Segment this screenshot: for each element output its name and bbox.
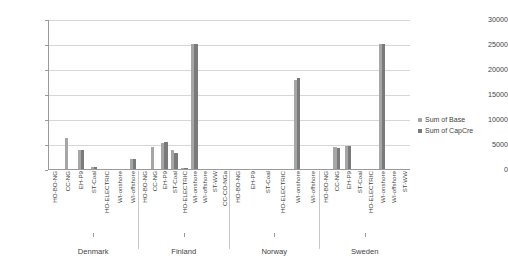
x-axis-category-label: WI-offshore — [304, 171, 319, 233]
x-axis-category-label: CC-NG — [149, 171, 159, 233]
x-axis-category-label-text: WI-offshore — [308, 171, 315, 203]
bar-pair[interactable] — [220, 20, 230, 169]
bar-pair[interactable] — [126, 20, 139, 169]
x-axis-category-label: WI-onshore — [289, 171, 304, 233]
bar-pair[interactable] — [387, 20, 398, 169]
bar-chart: 300002500020000150001000050000 HO-BO-NGC… — [0, 0, 508, 272]
x-axis-category-label-text: ST-WW — [401, 171, 408, 192]
bar-base[interactable] — [65, 138, 68, 169]
bar-pair[interactable] — [320, 20, 331, 169]
bar-capcre[interactable] — [348, 146, 351, 170]
bar-pair[interactable] — [305, 20, 320, 169]
x-axis-category-label: ST-Coal — [259, 171, 274, 233]
bar-capcre[interactable] — [174, 153, 177, 169]
plot-area — [48, 20, 410, 170]
bar-pair[interactable] — [245, 20, 260, 169]
group-tick-mark — [274, 233, 275, 237]
x-axis-category-label: WI-offshore — [126, 171, 139, 233]
bar-pair[interactable] — [149, 20, 159, 169]
x-axis-category-label-text: HO-BO-NG — [233, 171, 240, 203]
bar-capcre[interactable] — [164, 142, 167, 169]
bar-pair[interactable] — [376, 20, 387, 169]
bar-capcre[interactable] — [133, 159, 136, 169]
bar-pair[interactable] — [189, 20, 199, 169]
bar-capcre[interactable] — [382, 44, 385, 169]
x-axis-category-label: EH-P9 — [74, 171, 87, 233]
y-axis-tick-label: 0 — [464, 166, 508, 174]
x-axis-category-label: HO-BO-NG — [48, 171, 61, 233]
bar-pair[interactable] — [275, 20, 290, 169]
bar-pair[interactable] — [331, 20, 342, 169]
x-axis-category-label-text: HO-BO-NG — [322, 171, 329, 203]
x-axis-category-label-text: EH-P9 — [248, 171, 255, 189]
bar-pair[interactable] — [199, 20, 209, 169]
bar-capcre[interactable] — [297, 78, 300, 169]
x-axis-category-label-text: HO-ELECTRIC — [278, 171, 285, 213]
bar-pair[interactable] — [365, 20, 376, 169]
bar-pair[interactable] — [75, 20, 88, 169]
x-axis-category-label-text: CC-NG — [64, 171, 71, 191]
bar-pair[interactable] — [399, 20, 410, 169]
x-axis-group-labels: DenmarkFinlandNorwaySweden — [48, 247, 410, 261]
bar-pair[interactable] — [342, 20, 353, 169]
bar-capcre[interactable] — [184, 168, 187, 169]
x-axis-category-label-text: WI-onshore — [190, 171, 197, 203]
bar-group-norway — [230, 20, 320, 169]
x-axis-category-label-text: CC-NG — [150, 171, 157, 191]
x-axis-category-label: EH-P9 — [244, 171, 259, 233]
x-axis-category-label-text: WI-offshore — [200, 171, 207, 203]
bar-base[interactable] — [249, 169, 252, 170]
bar-pair[interactable] — [88, 20, 101, 169]
group-tick-mark — [184, 233, 185, 237]
bar-pair[interactable] — [113, 20, 126, 169]
x-axis-category-label: HO-BO-NG — [229, 171, 244, 233]
x-axis-category-label-text: HO-ELECTRIC — [180, 171, 187, 213]
bar-pair[interactable] — [230, 20, 245, 169]
x-axis-category-label-text: WI-offshore — [390, 171, 397, 203]
x-axis-category-label: WI-offshore — [387, 171, 398, 233]
group-label-denmark: Denmark — [48, 247, 139, 261]
bar-pair[interactable] — [260, 20, 275, 169]
bar-capcre[interactable] — [337, 148, 340, 170]
bar-group-finland — [139, 20, 229, 169]
bar-pair[interactable] — [49, 20, 62, 169]
x-axis-category-label: HO-ELECTRIC — [274, 171, 289, 233]
bar-pair[interactable] — [209, 20, 219, 169]
legend-item[interactable]: Sum of Base — [418, 114, 504, 125]
legend-item[interactable]: Sum of CapCre — [418, 125, 504, 136]
bar-pair[interactable] — [139, 20, 149, 169]
x-axis-category-label-text: ST-Coal — [263, 171, 270, 193]
x-axis-category-label-text: ST-Coal — [356, 171, 363, 193]
x-axis-category-label: WI-onshore — [189, 171, 199, 233]
bar-base[interactable] — [151, 147, 154, 169]
bar-pair[interactable] — [101, 20, 114, 169]
x-axis-category-label: CC-NG — [61, 171, 74, 233]
bar-pair[interactable] — [169, 20, 179, 169]
x-axis-category-label-text: WI-onshore — [293, 171, 300, 203]
x-axis-category-label: CC-NG — [331, 171, 342, 233]
x-axis-category-labels: HO-BO-NGCC-NGEH-P9ST-CoalHO-ELECTRICWI-o… — [48, 171, 410, 233]
x-axis-category-label-text: ST-WW — [210, 171, 217, 192]
x-axis-category-label: EH-P9 — [342, 171, 353, 233]
bar-capcre[interactable] — [94, 167, 97, 170]
bar-capcre[interactable] — [194, 44, 197, 169]
bar-pair[interactable] — [179, 20, 189, 169]
x-label-group-norway: HO-BO-NGEH-P9ST-CoalHO-ELECTRICWI-onshor… — [229, 171, 320, 233]
bar-pair[interactable] — [290, 20, 305, 169]
x-axis-category-label: ST-Coal — [87, 171, 100, 233]
bar-pair[interactable] — [159, 20, 169, 169]
x-label-group-denmark: HO-BO-NGCC-NGEH-P9ST-CoalHO-ELECTRICWI-o… — [48, 171, 139, 233]
x-axis-category-label: WI-offshore — [199, 171, 209, 233]
x-axis-category-label: ST-WW — [399, 171, 410, 233]
x-axis-category-label: EH-P9 — [159, 171, 169, 233]
bar-pair[interactable] — [62, 20, 75, 169]
x-axis-category-label-text: ST-Coal — [90, 171, 97, 193]
bar-capcre[interactable] — [81, 150, 84, 169]
x-axis-category-label-text: WI-onshore — [378, 171, 385, 203]
bar-pair[interactable] — [354, 20, 365, 169]
bar-group-denmark — [49, 20, 139, 169]
chart-legend: Sum of BaseSum of CapCre — [418, 114, 504, 136]
x-axis-category-label: HO-BO-NG — [320, 171, 331, 233]
x-axis-category-label: HO-ELECTRIC — [365, 171, 376, 233]
x-axis-category-label-text: EH-P9 — [77, 171, 84, 189]
